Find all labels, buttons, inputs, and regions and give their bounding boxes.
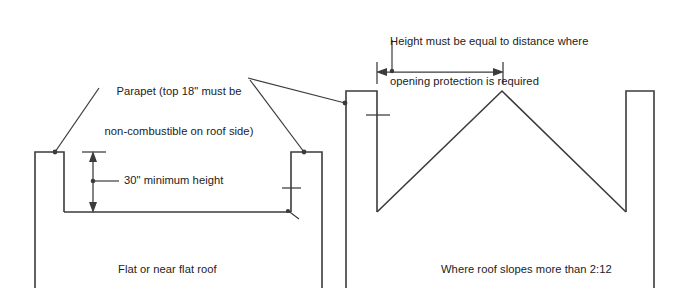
- height-rule-note-line-1: Height must be equal to distance where: [390, 35, 620, 48]
- roof-deck-corner-leader-dot: [286, 209, 290, 213]
- opening-protection-arrow-left: [376, 68, 387, 76]
- right-building-left-parapet: [346, 91, 377, 288]
- parapet-label-leader-mid-dot: [302, 150, 307, 155]
- min-height-leader-dot: [91, 179, 96, 184]
- height-rule-note-line-2: opening protection is required: [390, 75, 620, 88]
- height-rule-note-label: Height must be equal to distance where o…: [390, 8, 620, 115]
- roof-parapet-diagram: Parapet (top 18" must be non-combustible…: [0, 0, 686, 303]
- left-building-right-parapet: [291, 152, 322, 288]
- right-building-right-parapet: [626, 91, 654, 288]
- parapet-label-leader-right-dot: [343, 101, 348, 106]
- parapet-label-leader-left-dot: [53, 150, 58, 155]
- parapet-note-line-2: non-combustible on roof side): [94, 125, 264, 138]
- parapet-label-leader-left: [55, 88, 99, 152]
- left-building-left-parapet: [35, 152, 64, 288]
- parapet-note-line-1: Parapet (top 18" must be: [94, 85, 264, 98]
- sloped-roof-caption: Where roof slopes more than 2:12: [441, 263, 612, 276]
- parapet-note-label: Parapet (top 18" must be non-combustible…: [94, 58, 264, 165]
- flat-roof-caption: Flat or near flat roof: [118, 263, 217, 276]
- min-height-label: 30" minimum height: [124, 174, 223, 187]
